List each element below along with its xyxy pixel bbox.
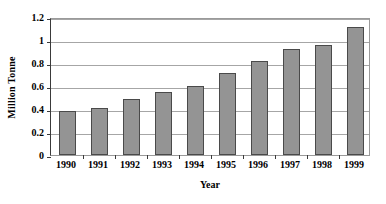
x-tick-label: 1998: [312, 160, 332, 170]
y-tick-label: 0: [39, 151, 44, 161]
bar: [123, 99, 140, 155]
y-tick-label: 1.2: [32, 13, 45, 23]
x-tickmark: [179, 155, 180, 159]
x-tickmark: [83, 155, 84, 159]
x-tick-label: 1997: [280, 160, 300, 170]
x-tick-label: 1993: [152, 160, 172, 170]
y-tick-label: 0.8: [32, 59, 45, 69]
y-tick-label: 0.2: [32, 128, 45, 138]
x-axis-tick-labels: 1990199119921993199419951996199719981999: [50, 160, 370, 174]
y-axis-title-label: Million Tonne: [6, 56, 17, 118]
bar: [251, 61, 268, 155]
y-axis-tick-labels: 00.20.40.60.811.2: [16, 18, 46, 156]
bar: [155, 92, 172, 155]
bar: [91, 108, 108, 155]
bar: [347, 27, 364, 155]
bar: [219, 73, 236, 155]
x-tickmark: [243, 155, 244, 159]
bar: [187, 86, 204, 155]
x-tickmark: [339, 155, 340, 159]
x-tick-label: 1999: [344, 160, 364, 170]
x-axis-title: Year: [50, 180, 370, 190]
x-tick-label: 1994: [184, 160, 204, 170]
x-tick-label: 1990: [56, 160, 76, 170]
bar: [315, 45, 332, 155]
bars-group: [51, 19, 369, 155]
bar: [59, 111, 76, 155]
x-tickmark: [307, 155, 308, 159]
x-tick-label: 1991: [88, 160, 108, 170]
x-tick-label: 1992: [120, 160, 140, 170]
plot-area: [50, 18, 370, 156]
y-tick-label: 1: [39, 36, 44, 46]
y-tick-label: 0.4: [32, 105, 45, 115]
y-tick-label: 0.6: [32, 82, 45, 92]
x-tickmark: [211, 155, 212, 159]
x-tickmark: [115, 155, 116, 159]
x-tickmark: [147, 155, 148, 159]
bar: [283, 49, 300, 155]
bar-chart: Million Tonne 00.20.40.60.811.2 19901991…: [0, 0, 386, 204]
y-tickmark: [47, 157, 51, 158]
x-tick-label: 1996: [248, 160, 268, 170]
x-tickmark: [275, 155, 276, 159]
x-tick-label: 1995: [216, 160, 236, 170]
